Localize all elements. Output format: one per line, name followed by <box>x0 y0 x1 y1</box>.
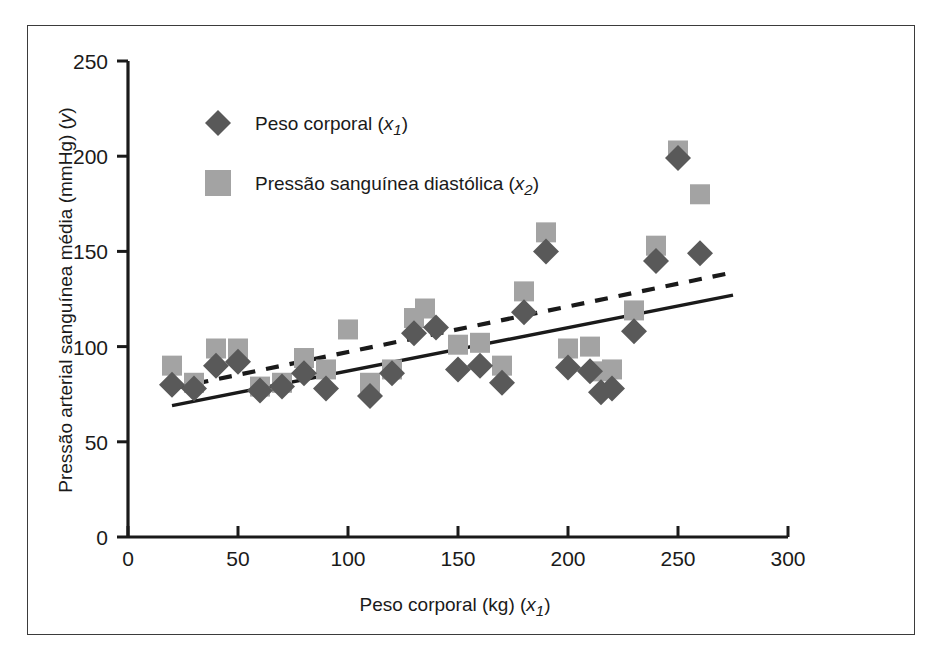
data-point-s2-22 <box>624 300 644 320</box>
tick-labels-group: 050100150200250300050100150200250 <box>73 50 806 570</box>
axis-group <box>128 61 788 537</box>
data-point-s2-19 <box>580 337 600 357</box>
x-tick-label-100: 100 <box>330 547 365 570</box>
x-tick-label-50: 50 <box>226 547 249 570</box>
figure-root: 050100150200250300050100150200250 Peso c… <box>0 0 941 658</box>
data-point-s1-21 <box>621 318 647 344</box>
x-tick-label-200: 200 <box>550 547 585 570</box>
y-axis-title: Pressão arterial sanguínea média (mmHg) … <box>55 107 76 492</box>
y-tick-label-150: 150 <box>73 240 108 263</box>
legend-marker-diamond <box>205 110 231 136</box>
y-tick-label-0: 0 <box>96 526 108 549</box>
data-point-s1-13 <box>467 353 493 379</box>
data-point-s2-13 <box>448 335 468 355</box>
x-tick-label-150: 150 <box>440 547 475 570</box>
legend-label-1: Peso corporal (x1) <box>255 113 408 138</box>
x-tick-label-300: 300 <box>770 547 805 570</box>
data-point-s1-24 <box>687 240 713 266</box>
data-point-s2-8 <box>338 319 358 339</box>
chart-legend: Peso corporal (x1)Pressão sanguínea dias… <box>205 110 539 198</box>
data-point-s2-25 <box>690 184 710 204</box>
data-point-s2-12 <box>415 299 435 319</box>
y-tick-label-100: 100 <box>73 336 108 359</box>
data-point-s2-14 <box>470 333 490 353</box>
legend-marker-square <box>205 170 231 196</box>
y-tick-label-50: 50 <box>85 431 108 454</box>
y-tick-label-250: 250 <box>73 50 108 73</box>
y-tick-label-200: 200 <box>73 145 108 168</box>
data-point-s2-16 <box>514 281 534 301</box>
data-point-s1-15 <box>511 299 537 325</box>
x-tick-label-0: 0 <box>122 547 134 570</box>
legend-label-2: Pressão sanguínea diastólica (x2) <box>255 173 539 198</box>
x-tick-label-250: 250 <box>660 547 695 570</box>
data-point-s1-12 <box>445 356 471 382</box>
scatter-chart: 050100150200250300050100150200250 Peso c… <box>0 0 941 658</box>
x-axis-title: Peso corporal (kg) (x1) <box>359 594 550 619</box>
